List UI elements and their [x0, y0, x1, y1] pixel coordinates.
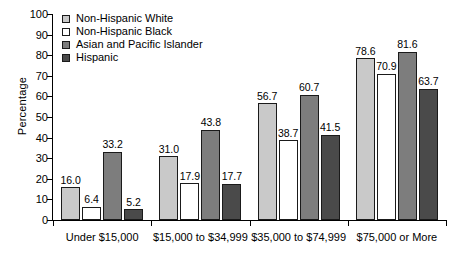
y-tick-mark — [47, 117, 52, 118]
y-tick-label: 40 — [22, 132, 48, 143]
x-axis-group-separator — [446, 220, 447, 226]
bar-value-label: 43.8 — [201, 117, 221, 128]
y-tick-mark — [47, 76, 52, 77]
bar-value-label: 56.7 — [257, 91, 277, 102]
bar-group: 56.738.760.741.5 — [250, 14, 348, 220]
y-axis-tick-labels: 0102030405060708090100 — [22, 14, 48, 220]
legend-label: Asian and Pacific Islander — [76, 39, 203, 50]
legend-label: Non-Hispanic Black — [76, 26, 172, 37]
bar — [201, 130, 220, 220]
y-tick-label: 70 — [22, 70, 48, 81]
x-axis-group-separator — [250, 220, 251, 226]
y-tick-label: 100 — [22, 9, 48, 20]
legend-swatch-icon — [62, 28, 70, 36]
y-tick-label: 0 — [22, 215, 48, 226]
x-axis-group-separator — [53, 220, 54, 226]
bar-group: 78.670.981.663.7 — [348, 14, 446, 220]
x-axis-group-separator — [348, 220, 349, 226]
x-axis-category-label: Under $15,000 — [66, 231, 139, 243]
x-axis-category-label: $75,000 or More — [357, 231, 438, 243]
bar — [321, 135, 340, 220]
bar-value-label: 70.9 — [376, 61, 396, 72]
bar — [279, 140, 298, 220]
bar-value-label: 38.7 — [278, 128, 298, 139]
legend-label: Hispanic — [76, 52, 118, 63]
bar — [124, 209, 143, 220]
y-tick-label: 30 — [22, 153, 48, 164]
legend-swatch-icon — [62, 15, 70, 23]
legend-item-non-hispanic-black: Non-Hispanic Black — [62, 25, 203, 38]
x-axis-group-separator — [151, 220, 152, 226]
bar — [159, 156, 178, 220]
legend-item-asian-and-pacific-islander: Asian and Pacific Islander — [62, 38, 203, 51]
bar — [180, 183, 199, 220]
bar-value-label: 63.7 — [418, 76, 438, 87]
bar-value-label: 78.6 — [355, 46, 375, 57]
bar — [258, 103, 277, 220]
legend-item-hispanic: Hispanic — [62, 51, 203, 64]
y-tick-mark — [47, 199, 52, 200]
bar — [103, 152, 122, 220]
legend-item-non-hispanic-white: Non-Hispanic White — [62, 12, 203, 25]
bar — [61, 187, 80, 220]
x-axis-category-label: $35,000 to $74,999 — [251, 231, 346, 243]
chart-legend: Non-Hispanic WhiteNon-Hispanic BlackAsia… — [62, 12, 203, 64]
bar — [419, 89, 438, 220]
y-tick-label: 50 — [22, 112, 48, 123]
y-tick-mark — [47, 55, 52, 56]
y-tick-mark — [47, 179, 52, 180]
y-tick-mark — [47, 96, 52, 97]
bar-value-label: 17.9 — [180, 171, 200, 182]
y-tick-mark — [47, 138, 52, 139]
y-tick-label: 10 — [22, 194, 48, 205]
bar — [300, 95, 319, 220]
bar-value-label: 5.2 — [126, 197, 141, 208]
y-tick-mark — [47, 35, 52, 36]
y-tick-mark — [47, 220, 52, 221]
bar-value-label: 41.5 — [320, 122, 340, 133]
bar-value-label: 81.6 — [397, 39, 417, 50]
bar-value-label: 33.2 — [102, 139, 122, 150]
bar — [82, 207, 101, 220]
bar — [356, 58, 375, 220]
bar-value-label: 31.0 — [159, 144, 179, 155]
legend-swatch-icon — [62, 54, 70, 62]
y-tick-mark — [47, 14, 52, 15]
legend-label: Non-Hispanic White — [76, 13, 173, 24]
bar-value-label: 6.4 — [84, 194, 99, 205]
y-tick-label: 80 — [22, 50, 48, 61]
y-tick-label: 90 — [22, 29, 48, 40]
bar-value-label: 17.7 — [222, 171, 242, 182]
y-tick-label: 60 — [22, 91, 48, 102]
bar — [398, 52, 417, 220]
bar — [222, 184, 241, 220]
bar-value-label: 16.0 — [60, 175, 80, 186]
y-tick-mark — [47, 158, 52, 159]
bar — [377, 74, 396, 220]
bar-chart: Percentage 0102030405060708090100 16.06.… — [0, 0, 451, 263]
x-axis-category-label: $15,000 to $34,999 — [153, 231, 248, 243]
bar-value-label: 60.7 — [299, 82, 319, 93]
legend-swatch-icon — [62, 41, 70, 49]
y-tick-label: 20 — [22, 173, 48, 184]
